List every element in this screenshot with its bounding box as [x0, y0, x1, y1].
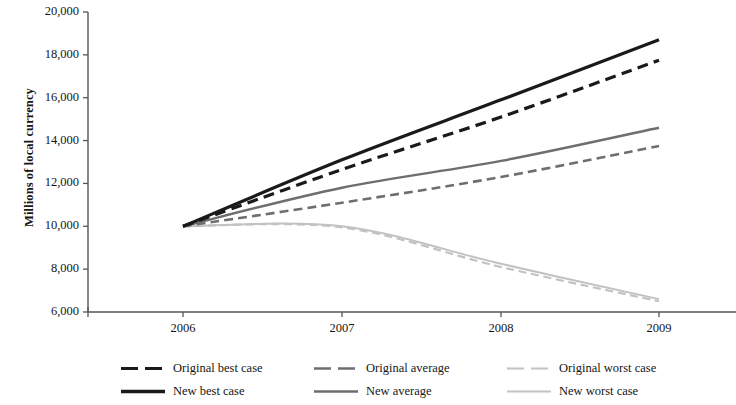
legend-item[interactable]: Original best case: [120, 357, 313, 380]
legend-line-swatch: [313, 363, 359, 374]
legend-item[interactable]: New average: [313, 380, 506, 403]
line-chart: Millions of local currency 20,00018,0001…: [0, 0, 736, 405]
legend-item[interactable]: Original worst case: [506, 357, 706, 380]
legend-label: Original best case: [173, 362, 263, 375]
legend-line-swatch: [120, 386, 166, 397]
legend-label: Original worst case: [559, 362, 656, 375]
legend-line-swatch: [506, 363, 552, 374]
legend-line-swatch: [506, 386, 552, 397]
legend-line-swatch: [313, 386, 359, 397]
legend-label: New best case: [173, 385, 245, 398]
series-line: [183, 40, 659, 226]
legend-item[interactable]: Original average: [313, 357, 506, 380]
legend-line-swatch: [120, 363, 166, 374]
plot-area: [0, 0, 736, 405]
legend-label: New average: [366, 385, 432, 398]
legend-item[interactable]: New best case: [120, 380, 313, 403]
series-line: [183, 224, 659, 300]
legend-label: New worst case: [559, 385, 638, 398]
legend-label: Original average: [366, 362, 450, 375]
legend-item[interactable]: New worst case: [506, 380, 706, 403]
chart-legend: Original best caseOriginal averageOrigin…: [120, 357, 720, 403]
series-line: [183, 224, 659, 301]
series-line: [183, 128, 659, 227]
series-line: [183, 146, 659, 226]
